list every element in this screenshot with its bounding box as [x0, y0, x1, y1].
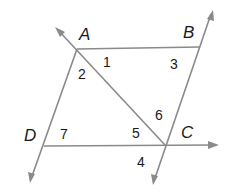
- line-dc: [44, 145, 214, 146]
- angle-label-5: 5: [132, 125, 140, 141]
- point-label-c: C: [181, 123, 194, 142]
- angle-label-1: 1: [103, 54, 111, 70]
- geometry-diagram: A B C D 1 2 3 4 5 6 7: [0, 0, 231, 195]
- line-ad: [31, 49, 77, 179]
- arrowhead-down-d: [28, 172, 35, 183]
- point-label-a: A: [78, 25, 90, 44]
- segment-ab: [77, 47, 200, 49]
- point-label-d: D: [24, 126, 36, 145]
- arrowhead-down-c: [151, 174, 158, 185]
- angle-label-6: 6: [155, 107, 163, 123]
- arrowhead-right: [208, 141, 219, 149]
- angle-label-4: 4: [137, 154, 145, 170]
- angle-label-2: 2: [78, 66, 86, 82]
- arrowhead-up-right: [207, 10, 214, 21]
- angle-label-3: 3: [170, 56, 178, 72]
- point-label-b: B: [183, 23, 194, 42]
- angle-label-7: 7: [60, 126, 68, 142]
